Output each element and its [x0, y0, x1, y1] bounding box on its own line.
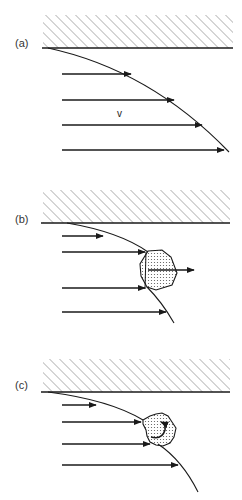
panel-label-b: (b)	[15, 213, 28, 225]
velocity-profile-curve-c-lower	[158, 444, 198, 492]
panel-c: (c)	[15, 359, 230, 492]
velocity-profile-curve-c-upper	[48, 392, 143, 420]
panel-a: (a) v	[15, 15, 233, 152]
panel-label-a: (a)	[15, 37, 28, 49]
particle-blob-c	[143, 413, 176, 446]
velocity-profile-curve-b-upper	[67, 223, 148, 252]
velocity-profile-curve-b-lower	[147, 287, 174, 323]
velocity-label: v	[117, 108, 122, 119]
wall-hatch-a	[43, 15, 233, 48]
wall-hatch-b	[43, 190, 230, 223]
velocity-arrows-a	[62, 74, 224, 150]
flow-diagram: (a) v (b) (c)	[0, 0, 242, 500]
wall-hatch-c	[43, 359, 230, 392]
panel-b: (b)	[15, 190, 230, 323]
panel-label-c: (c)	[15, 379, 28, 391]
